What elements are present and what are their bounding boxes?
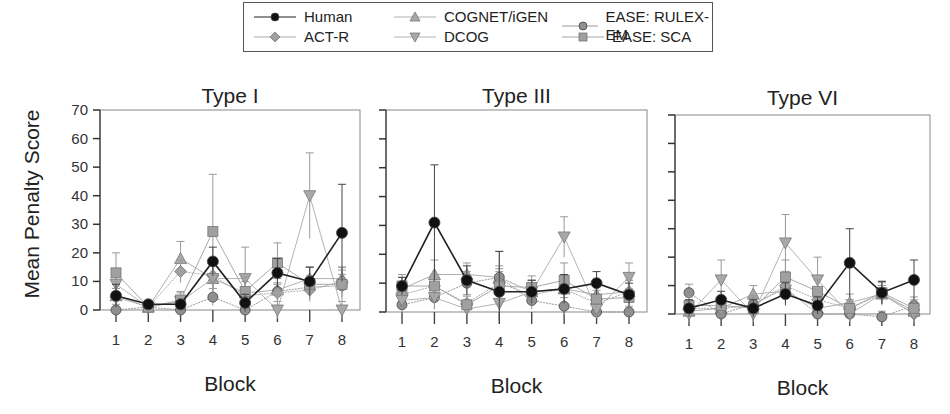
x-tick-label: 3	[749, 335, 757, 352]
data-point-marker	[111, 268, 121, 278]
y-tick-label: 60	[71, 130, 88, 147]
data-point-marker	[591, 278, 602, 289]
data-point-marker	[780, 289, 791, 300]
x-tick-label: 4	[781, 335, 789, 352]
data-point-marker	[494, 286, 505, 297]
x-tick-label: 2	[717, 335, 725, 352]
data-point-marker	[684, 288, 694, 298]
data-point-marker	[429, 217, 440, 228]
panel-type-iii: 12345678	[379, 110, 647, 350]
data-point-marker	[272, 267, 283, 278]
data-point-marker	[909, 303, 919, 313]
data-point-marker	[813, 286, 823, 296]
data-point-marker	[207, 256, 218, 267]
data-point-marker	[175, 299, 186, 310]
data-point-marker	[429, 281, 439, 291]
data-point-marker	[462, 300, 472, 310]
data-point-marker	[240, 297, 251, 308]
series-human	[684, 229, 920, 317]
panel-type-vi: 12345678	[668, 115, 930, 352]
data-point-marker	[208, 292, 218, 302]
x-tick-label: 2	[144, 331, 152, 348]
data-point-marker	[461, 275, 472, 286]
panel-type-i: 01020304050607012345678	[71, 101, 360, 348]
data-point-marker	[844, 257, 855, 268]
data-point-marker	[845, 303, 855, 313]
data-point-marker	[304, 191, 316, 202]
x-tick-label: 7	[878, 335, 886, 352]
x-tick-label: 6	[273, 331, 281, 348]
data-point-marker	[143, 299, 154, 310]
x-tick-label: 5	[528, 333, 536, 350]
data-point-marker	[526, 286, 537, 297]
data-point-marker	[624, 307, 634, 317]
x-tick-label: 1	[685, 335, 693, 352]
y-tick-label: 30	[71, 215, 88, 232]
data-point-marker	[748, 303, 759, 314]
data-point-marker	[397, 281, 408, 292]
chart-plot-area: 010203040506070123456781234567812345678	[0, 0, 950, 414]
data-point-marker	[111, 290, 122, 301]
x-tick-label: 7	[592, 333, 600, 350]
x-tick-label: 1	[398, 333, 406, 350]
y-tick-label: 70	[71, 101, 88, 118]
data-point-marker	[684, 303, 695, 314]
x-tick-label: 6	[846, 335, 854, 352]
data-point-marker	[877, 312, 887, 322]
x-tick-label: 5	[241, 331, 249, 348]
x-tick-label: 4	[209, 331, 217, 348]
data-point-marker	[208, 226, 218, 236]
data-point-marker	[812, 300, 823, 311]
data-point-marker	[780, 272, 790, 282]
y-tick-label: 40	[71, 187, 88, 204]
x-tick-label: 8	[338, 331, 346, 348]
x-tick-label: 3	[463, 333, 471, 350]
x-tick-label: 8	[625, 333, 633, 350]
y-tick-label: 10	[71, 272, 88, 289]
x-tick-label: 4	[495, 333, 503, 350]
y-tick-label: 20	[71, 244, 88, 261]
x-tick-label: 2	[430, 333, 438, 350]
data-point-marker	[592, 294, 602, 304]
x-tick-label: 1	[112, 331, 120, 348]
data-point-marker	[876, 287, 887, 298]
data-point-marker	[716, 294, 727, 305]
data-point-marker	[304, 276, 315, 287]
data-point-marker	[558, 232, 570, 243]
x-tick-label: 3	[176, 331, 184, 348]
y-tick-label: 50	[71, 158, 88, 175]
data-point-marker	[909, 274, 920, 285]
data-point-marker	[337, 227, 348, 238]
data-point-marker	[559, 283, 570, 294]
x-tick-label: 6	[560, 333, 568, 350]
x-tick-label: 8	[910, 335, 918, 352]
x-tick-label: 7	[306, 331, 314, 348]
data-point-marker	[624, 289, 635, 300]
x-tick-label: 5	[813, 335, 821, 352]
y-tick-label: 0	[80, 301, 88, 318]
